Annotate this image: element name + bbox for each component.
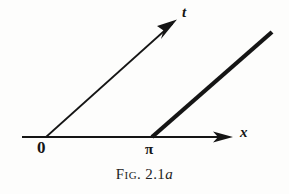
x-axis-group: [22, 132, 233, 143]
pi-tick-label: π: [145, 142, 153, 157]
diagram-canvas: [0, 0, 289, 194]
origin-tick-label: 0: [37, 139, 46, 156]
t-axis-line: [46, 24, 173, 138]
characteristic-ray-group: [152, 32, 272, 137]
t-axis-group: [46, 20, 177, 138]
figure-container: t x 0 π Fig. 2.1a: [0, 0, 289, 194]
caption-number: 2.1: [145, 166, 165, 182]
characteristic-ray-line: [152, 32, 272, 137]
x-axis-label: x: [240, 125, 248, 140]
t-axis-arrowhead-icon: [157, 20, 177, 40]
caption-prefix: Fig.: [116, 166, 141, 182]
figure-caption: Fig. 2.1a: [0, 166, 289, 183]
t-axis-label: t: [182, 5, 186, 20]
caption-suffix: a: [165, 166, 173, 182]
